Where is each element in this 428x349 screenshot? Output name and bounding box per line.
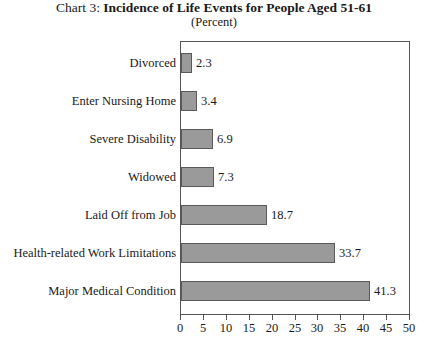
bar-row: 3.4 [181,82,410,120]
x-tick-mark [409,315,410,320]
x-tick-mark [249,315,250,320]
bar-row: 41.3 [181,272,410,310]
category-label: Divorced [0,44,176,82]
category-axis-labels: DivorcedEnter Nursing HomeSevere Disabil… [0,42,176,315]
bar-value-label: 41.3 [370,281,396,301]
x-tick-mark [363,315,364,320]
bar-value-label: 33.7 [335,243,361,263]
x-tick-mark [203,315,204,320]
bar [181,281,370,301]
bar-value-label: 2.3 [192,53,212,73]
chart-title-main: Incidence of Life Events for People Aged… [103,0,372,15]
category-label: Enter Nursing Home [0,82,176,120]
bar-value-label: 7.3 [214,167,234,187]
x-tick-mark [340,315,341,320]
bar [181,129,213,149]
bar [181,167,214,187]
bar-value-label: 18.7 [267,205,293,225]
x-axis-ticks: 05101520253035404550 [180,315,411,349]
category-label: Health-related Work Limitations [0,234,176,272]
bar-row: 6.9 [181,120,410,158]
bar-row: 18.7 [181,196,410,234]
x-tick-mark [386,315,387,320]
bar [181,91,197,111]
x-tick-mark [180,315,181,320]
bars-layer: 2.33.46.97.318.733.741.3 [181,42,410,315]
bar [181,53,192,73]
bar-row: 2.3 [181,44,410,82]
bar-row: 7.3 [181,158,410,196]
x-tick-mark [317,315,318,320]
bar-row: 33.7 [181,234,410,272]
chart-title: Chart 3: Incidence of Life Events for Pe… [0,0,428,15]
chart-title-prefix: Chart 3: [56,0,103,15]
chart-container: Chart 3: Incidence of Life Events for Pe… [0,0,428,349]
x-tick-mark [272,315,273,320]
x-tick-label: 50 [394,321,424,336]
x-tick-mark [295,315,296,320]
category-label: Laid Off from Job [0,196,176,234]
x-tick-mark [226,315,227,320]
category-label: Widowed [0,158,176,196]
bar-value-label: 3.4 [197,91,217,111]
chart-subtitle: (Percent) [0,15,428,30]
bar [181,243,335,263]
bar [181,205,267,225]
category-label: Major Medical Condition [0,272,176,310]
category-label: Severe Disability [0,120,176,158]
bar-value-label: 6.9 [213,129,233,149]
